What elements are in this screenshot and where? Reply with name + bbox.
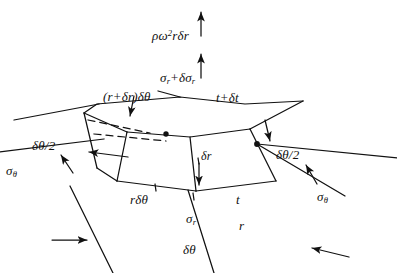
outer-arc-leader <box>158 91 180 97</box>
hoop-stress-left-label: σθ <box>6 164 17 179</box>
thickness-inner-label: t <box>236 193 240 206</box>
bottom-front-edge <box>117 181 196 191</box>
subtended-angle-label: δθ <box>183 243 196 256</box>
bottom-tick-left <box>155 184 156 191</box>
diagram-canvas <box>0 0 397 273</box>
hidden-edge-upper <box>88 120 150 133</box>
hoop-left-leader-tick <box>61 155 73 173</box>
thickness-outer-label: t+δt <box>216 91 239 104</box>
front-center-vertical-edge <box>190 137 196 191</box>
radius-label: r <box>239 219 244 232</box>
outer-arc-length-label: (r+δr)δθ <box>103 90 151 103</box>
centrifugal-force-label: ρω2rδr <box>152 29 189 42</box>
bottom-tick-center <box>193 193 194 200</box>
hidden-vertex-dot <box>163 131 168 136</box>
front-right-vertical-edge <box>250 129 276 181</box>
bottom-left-edge <box>97 168 117 181</box>
bottom-right-leader-arrow <box>312 248 349 257</box>
left-lower-radial-line <box>70 186 113 273</box>
radial-stress-inner-label: σr <box>186 212 196 227</box>
rotating-disc-element-figure: ρω2rδr σr+δσr t+δt (r+δr)δθ δθ/2 δθ/2 σθ… <box>0 0 397 273</box>
half-angle-left-label: δθ/2 <box>32 139 55 152</box>
inner-arc-length-label: rδθ <box>130 193 148 206</box>
angle-center-dot <box>254 141 260 147</box>
top-face-front-edge <box>127 129 250 137</box>
hoop-stress-right-label: σθ <box>317 190 328 205</box>
bottom-right-edge <box>196 181 276 191</box>
radial-stress-outer-label: σr+δσr <box>160 71 195 86</box>
hidden-edge-lower <box>94 134 166 141</box>
bottom-radial-line <box>188 190 214 273</box>
half-angle-right-label: δθ/2 <box>276 148 299 161</box>
top-face-left-edge <box>84 113 127 132</box>
radial-thickness-label: δr <box>201 150 212 162</box>
half-angle-right-tick <box>265 120 270 141</box>
top-face-right-edge <box>250 101 303 129</box>
